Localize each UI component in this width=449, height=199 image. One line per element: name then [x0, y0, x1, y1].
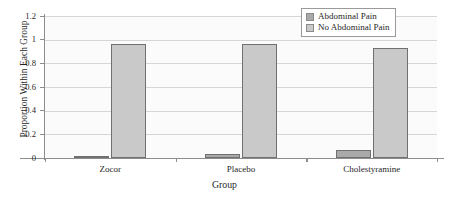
gridline-1: [45, 40, 437, 41]
x-tick-mark: [306, 158, 307, 162]
x-tick-mark: [437, 158, 438, 162]
x-tick-label-zocor: Zocor: [40, 165, 180, 174]
y-tick-mark: [40, 134, 45, 135]
legend-label: Abdominal Pain: [318, 11, 377, 22]
y-tick-label-0.2: 0.2: [8, 130, 36, 139]
y-tick-mark: [40, 16, 45, 17]
x-axis-line: [20, 158, 444, 159]
bar-placebo-no-abdominal-pain: [242, 44, 277, 158]
y-tick-mark: [40, 39, 45, 40]
y-tick-label-1: 1: [8, 35, 36, 44]
chart-legend: Abdominal PainNo Abdominal Pain: [301, 8, 396, 37]
y-tick-label-1.2: 1.2: [8, 12, 36, 21]
y-tick-label-0: 0: [8, 154, 36, 163]
bar-cholestyramine-abdominal-pain: [336, 150, 371, 158]
y-tick-label-0.8: 0.8: [8, 59, 36, 68]
x-tick-label-cholestyramine: Cholestyramine: [302, 165, 442, 174]
y-tick-label-0.6: 0.6: [8, 83, 36, 92]
y-tick-mark: [40, 63, 45, 64]
legend-swatch-no-abdominal-pain: [306, 24, 314, 32]
y-tick-mark: [40, 110, 45, 111]
x-tick-mark: [45, 158, 46, 162]
bar-chart-figure: Proportion Within Each Group 00.20.40.60…: [0, 0, 449, 199]
legend-swatch-abdominal-pain: [306, 13, 314, 21]
legend-item-no-abdominal-pain: No Abdominal Pain: [306, 22, 390, 33]
bar-zocor-abdominal-pain: [74, 156, 109, 158]
legend-label: No Abdominal Pain: [318, 22, 390, 33]
y-tick-label-0.4: 0.4: [8, 106, 36, 115]
bar-placebo-abdominal-pain: [205, 154, 240, 158]
x-tick-mark: [176, 158, 177, 162]
x-axis-title: Group: [0, 179, 449, 190]
y-tick-mark: [40, 87, 45, 88]
bar-zocor-no-abdominal-pain: [111, 44, 146, 158]
legend-item-abdominal-pain: Abdominal Pain: [306, 11, 390, 22]
bar-cholestyramine-no-abdominal-pain: [373, 48, 408, 158]
x-tick-label-placebo: Placebo: [171, 165, 311, 174]
